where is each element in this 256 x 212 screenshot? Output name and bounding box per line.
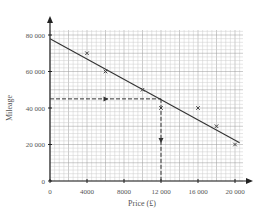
x-tick-label: 4000 xyxy=(80,188,95,196)
y-tick-label: 40 000 xyxy=(26,105,46,113)
tick-labels: 04000800012 00016 00020 000020 00040 000… xyxy=(26,32,245,197)
y-tick-label: 80 000 xyxy=(26,32,46,40)
x-tick-label: 12 000 xyxy=(151,188,171,196)
grid xyxy=(50,30,243,181)
x-tick-label: 16 000 xyxy=(188,188,208,196)
x-axis-label: Price (£) xyxy=(128,199,156,208)
scatter-chart: 04000800012 00016 00020 000020 00040 000… xyxy=(0,0,256,212)
x-tick-label: 20 000 xyxy=(225,188,245,196)
y-tick-label: 0 xyxy=(42,178,46,186)
x-tick-label: 0 xyxy=(48,188,52,196)
y-axis-label: Mileage xyxy=(5,94,14,121)
reading-annotations xyxy=(50,96,164,181)
line-of-best-fit xyxy=(50,39,240,143)
y-tick-label: 60 000 xyxy=(26,68,46,76)
y-tick-label: 20 000 xyxy=(26,141,46,149)
x-tick-label: 8000 xyxy=(117,188,132,196)
